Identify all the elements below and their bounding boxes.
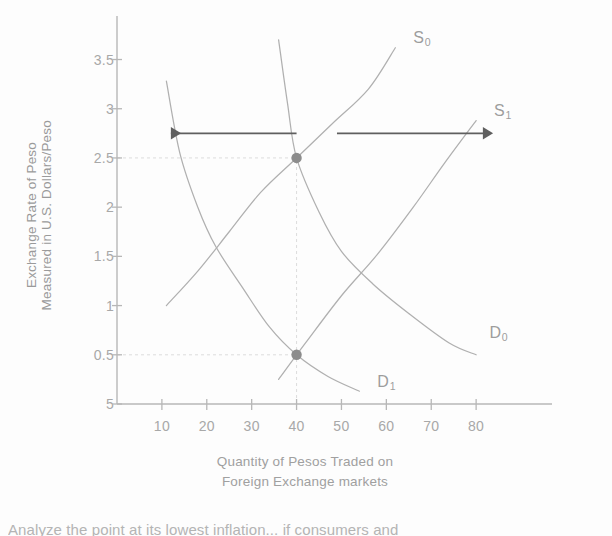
curve-label-S1-base: S — [494, 102, 505, 119]
x-tick-label-7: 80 — [458, 418, 494, 434]
x-tick-label-4: 50 — [323, 418, 359, 434]
x-tick-label-6: 70 — [413, 418, 449, 434]
curve-label-S0-base: S — [413, 29, 424, 46]
x-tick-label-0: 10 — [144, 418, 180, 434]
curve-label-D0-base: D — [490, 324, 502, 341]
x-tick-label-2: 30 — [234, 418, 270, 434]
x-tick-label-5: 60 — [368, 418, 404, 434]
curve-label-S0-subscript: 0 — [425, 36, 431, 48]
curve-label-D1: D1 — [377, 373, 395, 391]
x-axis-title-line-2: Foreign Exchange markets — [95, 472, 515, 492]
curve-label-D1-subscript: 1 — [390, 380, 396, 392]
chart-canvas: Exchange Rate of Peso Measured in U.S. D… — [0, 0, 612, 536]
x-tick-label-1: 20 — [189, 418, 225, 434]
curve-label-S1-subscript: 1 — [505, 109, 511, 121]
curve-label-D0-subscript: 0 — [502, 331, 508, 343]
curve-label-S0: S0 — [413, 29, 430, 47]
curve-label-D0: D0 — [490, 324, 508, 342]
x-axis-title: Quantity of Pesos Traded on Foreign Exch… — [95, 452, 515, 491]
curve-label-D1-base: D — [377, 373, 389, 390]
figure-caption: Analyze the point at its lowest inflatio… — [8, 521, 608, 536]
x-tick-label-3: 40 — [279, 418, 315, 434]
curve-label-S1: S1 — [494, 102, 511, 120]
x-axis-title-line-1: Quantity of Pesos Traded on — [95, 452, 515, 472]
